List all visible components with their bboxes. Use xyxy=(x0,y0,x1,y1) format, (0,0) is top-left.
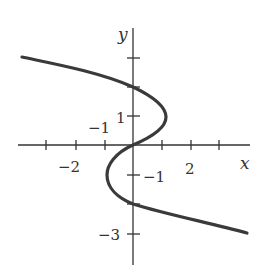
x-tick-label-neg1: −1 xyxy=(88,119,110,137)
x-tick-label-neg2: −2 xyxy=(58,158,80,176)
x-axis-label: x xyxy=(240,153,250,173)
y-tick-label-1: 1 xyxy=(116,109,126,127)
graph: y x −2 2 1 −1 −1 −3 xyxy=(0,0,271,279)
x-tick-label-2: 2 xyxy=(185,160,195,178)
y-tick-label-neg3: −3 xyxy=(98,226,120,244)
y-tick-label-neg1: −1 xyxy=(143,168,165,186)
y-axis-label: y xyxy=(117,24,128,44)
